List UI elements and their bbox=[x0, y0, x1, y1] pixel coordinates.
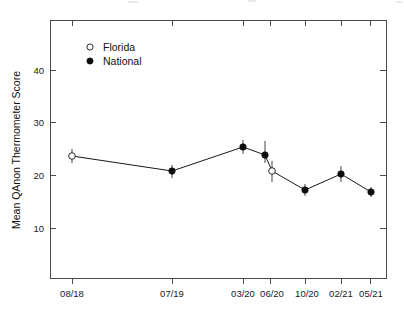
data-point bbox=[262, 152, 268, 158]
series-connecting-line bbox=[72, 147, 371, 192]
data-point bbox=[240, 144, 246, 150]
scan-artifact bbox=[128, 1, 138, 3]
legend-florida-marker-icon bbox=[87, 44, 93, 50]
legend-national-marker-icon bbox=[87, 58, 93, 64]
y-axis: 40 30 20 10 bbox=[33, 65, 56, 234]
chart-container: 08/18 07/19 03/20 06/20 10/20 02/21 05/2… bbox=[0, 0, 404, 310]
x-tick-label-0: 08/18 bbox=[60, 288, 84, 299]
legend-florida-label: Florida bbox=[103, 41, 135, 53]
x-axis: 08/18 07/19 03/20 06/20 10/20 02/21 05/2… bbox=[60, 278, 383, 299]
scan-artifact bbox=[396, 1, 402, 3]
scan-artifact bbox=[248, 0, 256, 2]
x-tick-label-2: 03/20 bbox=[231, 288, 255, 299]
top-axis-ticks bbox=[72, 20, 370, 26]
error-bars bbox=[72, 140, 371, 197]
right-axis-ticks bbox=[380, 70, 386, 228]
y-tick-label-40: 40 bbox=[33, 65, 44, 76]
chart-legend: Florida National bbox=[87, 41, 142, 67]
x-tick-label-5: 02/21 bbox=[329, 288, 353, 299]
x-tick-label-6: 05/21 bbox=[359, 288, 383, 299]
data-point bbox=[169, 168, 175, 174]
x-tick-label-1: 07/19 bbox=[160, 288, 184, 299]
x-tick-label-4: 10/20 bbox=[295, 288, 319, 299]
y-axis-title: Mean QAnon Thermometer Score bbox=[10, 71, 22, 229]
data-point bbox=[269, 168, 276, 175]
x-tick-label-3: 06/20 bbox=[260, 288, 284, 299]
plot-frame bbox=[50, 20, 386, 278]
legend-national-label: National bbox=[103, 55, 142, 67]
data-point bbox=[69, 153, 76, 160]
y-tick-label-10: 10 bbox=[33, 223, 44, 234]
data-point bbox=[368, 189, 374, 195]
data-point bbox=[302, 187, 308, 193]
y-tick-label-30: 30 bbox=[33, 117, 44, 128]
line-chart: 08/18 07/19 03/20 06/20 10/20 02/21 05/2… bbox=[0, 0, 404, 310]
y-tick-label-20: 20 bbox=[33, 170, 44, 181]
data-point bbox=[338, 171, 344, 177]
